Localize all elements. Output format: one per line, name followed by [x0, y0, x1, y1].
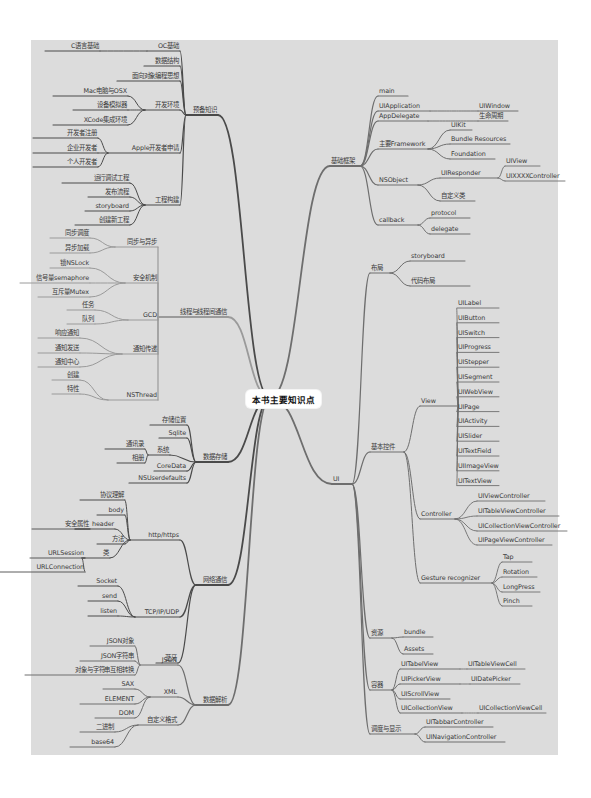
node-left-2-0[interactable]: 存储位置: [162, 416, 186, 424]
leaf-right-1-1-0-4[interactable]: UIStepper: [458, 358, 489, 366]
root-node[interactable]: 本书主要知识点: [246, 390, 321, 408]
leaf-right-1-1-0[interactable]: View: [421, 397, 436, 405]
leaf-right-0-4-0-0[interactable]: UIView: [506, 157, 527, 165]
leaf-left-1-3-2[interactable]: 通知中心: [55, 358, 79, 366]
leaf-left-2-2-1[interactable]: 相册: [132, 454, 144, 462]
leaf-right-1-1-1-3[interactable]: UIPageViewController: [478, 536, 545, 544]
leaf-left-0-5-2[interactable]: storyboard: [95, 202, 129, 210]
node-left-0-1[interactable]: 数据结构: [155, 57, 179, 65]
node-left-0-5[interactable]: 工程构建: [155, 196, 179, 204]
leaf-right-0-3-2[interactable]: Foundation: [451, 150, 486, 158]
leaf-left-1-1-0[interactable]: 锁NSLock: [60, 259, 89, 267]
node-left-4-0[interactable]: JSON: [162, 656, 177, 664]
branch-right-0[interactable]: 基础框架: [331, 157, 355, 165]
branch-left-0[interactable]: 预备知识: [193, 106, 217, 114]
leaf-left-0-5-1[interactable]: 发布流程: [105, 188, 129, 196]
leaf-left-0-3-1[interactable]: 设备模拟器: [97, 101, 127, 109]
leaf-left-1-1-1[interactable]: 信号量semaphore: [36, 274, 89, 282]
node-right-0-5[interactable]: callback: [379, 216, 404, 224]
leaf-left-0-5-0[interactable]: 运行调试工程: [94, 174, 129, 182]
leaf-right-1-1-2-3[interactable]: Pinch: [503, 597, 520, 605]
leaf-right-1-1-2-2[interactable]: LongPress: [503, 583, 534, 591]
leaf-right-1-3-3[interactable]: UICollectionView: [401, 704, 453, 712]
node-right-1-4[interactable]: 调度与显示: [371, 725, 401, 733]
leaf-right-1-1-0-2[interactable]: UISwitch: [458, 329, 485, 337]
leaf-left-4-0-1[interactable]: JSON字符串: [101, 652, 134, 660]
leaf-right-1-1-0-6[interactable]: UIWebView: [458, 388, 493, 396]
node-left-2-3[interactable]: CoreData: [157, 462, 186, 470]
leaf-right-0-3-0[interactable]: UIKit: [451, 121, 466, 129]
leaf-left-0-4-0[interactable]: 开发者注册: [67, 129, 97, 137]
node-left-1-4[interactable]: NSThread: [127, 391, 157, 399]
leaf-right-1-2-0[interactable]: bundle: [404, 628, 425, 636]
leaf-left-4-2-0[interactable]: 二进制: [96, 723, 114, 731]
node-left-4-1[interactable]: XML: [164, 688, 177, 696]
leaf-right-1-3-2[interactable]: UIScrollView: [401, 690, 439, 698]
node-right-0-1[interactable]: UIApplication: [379, 102, 420, 110]
leaf-right-1-3-1[interactable]: UIPickerView: [401, 675, 441, 683]
leaf-left-3-0-1[interactable]: body: [109, 506, 124, 514]
leaf-right-1-2-1[interactable]: Assets: [404, 645, 424, 653]
node-left-1-3[interactable]: 通知传递: [133, 345, 157, 353]
leaf-right-1-3-1-0[interactable]: UIDatePicker: [471, 675, 511, 683]
node-left-2-1[interactable]: Sqlite: [168, 429, 186, 437]
branch-right-1[interactable]: UI: [333, 475, 339, 483]
leaf-right-1-1-0-12[interactable]: UITextView: [458, 477, 492, 485]
leaf-left-4-0-0[interactable]: JSON对象: [107, 637, 134, 645]
node-right-0-0[interactable]: main: [379, 87, 395, 95]
node-right-1-2[interactable]: 资源: [371, 629, 383, 637]
leaf-right-1-1-0-10[interactable]: UITextField: [458, 447, 491, 455]
leaf-right-1-4-1[interactable]: UINavigationController: [426, 733, 496, 741]
leaf-right-1-1-1-2[interactable]: UICollectionViewController: [478, 522, 560, 530]
node-left-1-1[interactable]: 安全机制: [133, 274, 157, 282]
leaf-left-0-3-2[interactable]: XCode集成环境: [84, 116, 127, 124]
leaf-right-1-3-3-0[interactable]: UICollectionViewCell: [479, 704, 542, 712]
node-left-3-1[interactable]: TCP/IP/UDP: [145, 608, 179, 616]
leaf-right-1-1-0-7[interactable]: UIPage: [458, 403, 479, 411]
node-right-1-0[interactable]: 布局: [371, 264, 383, 272]
leaf-right-1-1-1-1[interactable]: UITableViewController: [478, 507, 546, 515]
leaf-left-1-4-0[interactable]: 创建: [67, 371, 79, 379]
leaf-right-0-4-0[interactable]: UIResponder: [441, 169, 481, 177]
leaf-left-1-4-1[interactable]: 特性: [67, 385, 79, 393]
node-right-1-1[interactable]: 基本控件: [371, 443, 395, 451]
leaf-right-0-4-0-1[interactable]: UIXXXXController: [506, 172, 559, 180]
leaf-left-1-0-1[interactable]: 异步加载: [65, 244, 89, 252]
node-left-2-4[interactable]: NSUserdefaults: [138, 474, 186, 482]
node-left-1-2[interactable]: GCD: [143, 311, 157, 319]
leaf-left-2-2-0[interactable]: 通讯录: [126, 440, 144, 448]
branch-left-4[interactable]: 数据解析: [203, 696, 227, 704]
leaf-left-3-1-1[interactable]: send: [102, 592, 117, 600]
leaf-right-1-1-0-9[interactable]: UISlider: [458, 432, 482, 440]
leaf-left-3-1-2[interactable]: listen: [100, 607, 117, 615]
leaf-left-0-4-1[interactable]: 企业开发者: [67, 144, 97, 152]
leaf-right-1-1-2-0[interactable]: Tap: [503, 553, 514, 561]
leaf-right-1-1-1[interactable]: Controller: [421, 510, 451, 518]
leaf-right-1-1-0-3[interactable]: UIProgress: [458, 343, 491, 351]
branch-left-1[interactable]: 线程与线程间通信: [180, 308, 227, 316]
leaf-right-0-2-0[interactable]: 生命周期: [479, 112, 503, 120]
leaf-left-1-2-1[interactable]: 队列: [82, 315, 94, 323]
leaf-left-0-0-0[interactable]: C语言基础: [71, 42, 99, 50]
node-left-0-4[interactable]: Apple开发者申请: [132, 144, 179, 152]
leaf-right-1-1-1-0[interactable]: UIViewController: [478, 492, 530, 500]
leaf-left-1-3-0[interactable]: 响应通知: [55, 329, 79, 337]
leaf-right-1-4-0[interactable]: UITabbarController: [426, 718, 484, 726]
leaf-left-1-3-1[interactable]: 通知发送: [55, 344, 79, 352]
leaf-left-0-4-2[interactable]: 个人开发者: [67, 158, 97, 166]
leaf-left-1-0-0[interactable]: 同步调度: [65, 229, 89, 237]
node-left-1-0[interactable]: 同步与异步: [127, 238, 157, 246]
leaf-right-0-3-1[interactable]: Bundle Resources: [451, 135, 506, 143]
leaf-left-4-0-2[interactable]: 对象与字符串互相转换: [75, 666, 134, 674]
leaf-right-1-1-0-0[interactable]: UILabel: [458, 299, 481, 307]
leaf-left-3-0-3[interactable]: 方法: [112, 535, 124, 543]
leaf-left-4-2-1[interactable]: base64: [91, 738, 114, 746]
leaf-left-3-0-0[interactable]: 协议理解: [100, 491, 124, 499]
leaf-right-1-1-0-1[interactable]: UIButton: [458, 314, 485, 322]
leaf-right-1-0-1[interactable]: 代码布局: [411, 277, 435, 285]
leaf-right-1-1-0-8[interactable]: UIActivity: [458, 417, 487, 425]
leaf-left-4-1-2[interactable]: DOM: [119, 709, 134, 717]
leaf-left-3-0-2-0[interactable]: 安全属性: [65, 520, 89, 528]
node-right-1-3[interactable]: 容器: [371, 681, 383, 689]
branch-left-3[interactable]: 网络通信: [203, 576, 227, 584]
